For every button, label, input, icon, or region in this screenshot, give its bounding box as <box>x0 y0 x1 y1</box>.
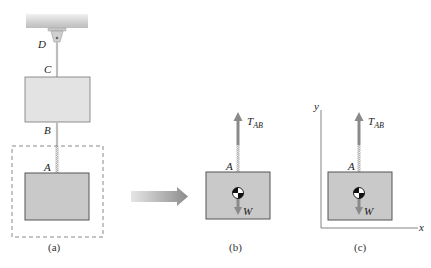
tension-arrow-head-icon <box>234 112 243 121</box>
panel-b: TAB A W (b) <box>206 112 270 254</box>
caption-b: (b) <box>229 241 242 254</box>
lower-block <box>25 173 89 220</box>
label-tension-b: TAB <box>247 115 263 130</box>
label-x-axis: x <box>418 221 424 233</box>
diagram-svg: D C B A (a) TAB A W (b) <box>0 0 431 268</box>
caption-c: (c) <box>354 241 367 254</box>
bracket-d <box>51 31 63 42</box>
center-of-gravity-icon <box>233 188 244 199</box>
label-d: D <box>37 38 46 50</box>
rope-c <box>358 145 361 172</box>
caption-a: (a) <box>48 241 61 254</box>
panel-a: D C B A (a) <box>12 14 103 254</box>
figure-canvas: D C B A (a) TAB A W (b) <box>0 0 431 268</box>
label-weight-b: W <box>243 205 253 217</box>
rope-b <box>237 145 240 172</box>
label-tension-c: TAB <box>368 115 384 130</box>
label-b: B <box>44 124 51 136</box>
tension-arrow-head-c-icon <box>355 112 364 121</box>
transition-arrow-icon <box>131 187 188 206</box>
panel-c: y x TAB A W (c) <box>313 100 424 254</box>
label-a-b: A <box>225 160 233 172</box>
center-of-gravity-c-icon <box>354 188 365 199</box>
label-a-c: A <box>347 160 355 172</box>
label-a: A <box>43 161 51 173</box>
label-c: C <box>44 63 52 75</box>
rope-a <box>56 146 59 173</box>
upper-block <box>25 77 90 122</box>
bracket-plate <box>48 28 66 31</box>
label-weight-c: W <box>364 205 374 217</box>
label-y-axis: y <box>313 100 319 112</box>
ceiling-beam <box>26 14 88 28</box>
pin-d-icon <box>56 37 59 40</box>
